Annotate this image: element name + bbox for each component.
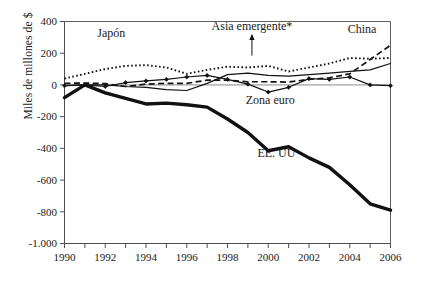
x-tick-label: 1998: [217, 251, 240, 263]
series-marker: [388, 84, 392, 88]
series-marker: [246, 82, 250, 86]
y-tick-label: -600: [37, 174, 58, 186]
axis-lines: [65, 22, 391, 244]
x-tick-label: 2004: [339, 251, 362, 263]
series-annotations: JapónAsia emergente*ChinaZona euroEE. UU: [97, 19, 377, 160]
annotation-label: Japón: [97, 26, 125, 40]
data-series: [62, 45, 392, 210]
x-tick-label: 2006: [380, 251, 403, 263]
line-chart-plot: 4002000-200-400-600-800-1.000 1990199219…: [0, 0, 431, 283]
series-marker: [144, 79, 148, 83]
y-tick-label: 0: [52, 79, 58, 91]
y-tick-label: -200: [37, 110, 58, 122]
y-tick-label: -1.000: [29, 237, 58, 249]
x-tick-label: 1992: [94, 251, 116, 263]
series-marker: [348, 75, 352, 79]
series-line-ee-uu: [65, 85, 391, 210]
series-marker: [287, 85, 291, 89]
chart-container: Miles de millones de $ 4002000-200-400-6…: [0, 0, 431, 283]
annotation-label: Asia emergente*: [212, 19, 293, 33]
series-marker: [368, 83, 372, 87]
y-axis-ticks: 4002000-200-400-600-800-1.000: [29, 15, 65, 249]
annotation-label: Zona euro: [246, 93, 295, 107]
y-tick-label: 200: [41, 47, 58, 59]
y-tick-label: -800: [37, 206, 58, 218]
x-axis-ticks: 199019921994199619982000200220042006: [54, 244, 403, 263]
series-marker: [185, 75, 189, 79]
series-marker: [62, 84, 66, 88]
series-line-china: [65, 45, 391, 86]
series-marker: [164, 77, 168, 81]
annotation-label: EE. UU: [257, 146, 295, 160]
x-tick-label: 1994: [135, 251, 158, 263]
y-tick-label: 400: [41, 15, 58, 27]
series-marker: [205, 73, 209, 77]
x-tick-label: 2000: [257, 251, 280, 263]
y-tick-label: -400: [37, 142, 58, 154]
x-tick-label: 1990: [54, 251, 77, 263]
series-marker: [124, 80, 128, 84]
x-tick-label: 2002: [298, 251, 320, 263]
x-tick-label: 1996: [176, 251, 199, 263]
annotation-label: China: [348, 22, 377, 36]
